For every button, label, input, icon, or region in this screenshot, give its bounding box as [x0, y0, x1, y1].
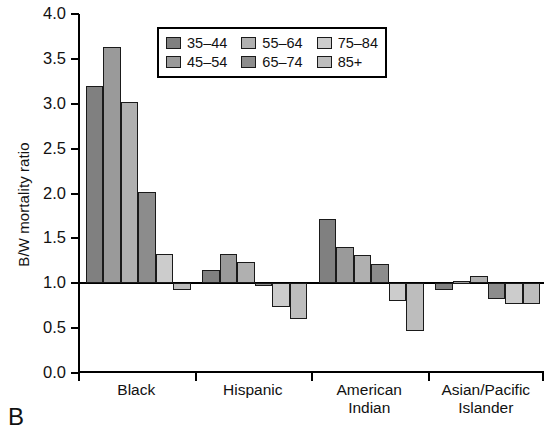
bar — [389, 283, 407, 301]
x-tick-mark — [428, 372, 430, 381]
legend-item: 75–84 — [317, 35, 378, 51]
bar — [237, 262, 255, 284]
y-tick-label: 3.5 — [20, 50, 66, 66]
legend-label: 65–74 — [262, 54, 302, 70]
y-tick-mark — [71, 103, 79, 105]
panel-letter: B — [8, 403, 24, 431]
legend-swatch-icon — [241, 56, 256, 68]
legend-label: 55–64 — [262, 35, 302, 51]
legend-item: 45–54 — [166, 54, 227, 70]
legend-item: 85+ — [317, 54, 363, 70]
legend-swatch-icon — [166, 56, 181, 68]
bar — [505, 283, 523, 304]
y-tick-mark — [71, 148, 79, 150]
bar — [156, 254, 174, 284]
legend-swatch-icon — [166, 37, 181, 49]
legend-swatch-icon — [317, 56, 332, 68]
y-tick-mark — [71, 13, 79, 15]
x-tick-mark — [311, 372, 313, 381]
x-group-label-line: Islander — [418, 399, 552, 417]
bar — [121, 102, 139, 283]
y-tick-label: 0.0 — [20, 364, 66, 380]
bar — [470, 276, 488, 283]
y-tick-mark — [71, 193, 79, 195]
bar — [290, 283, 308, 319]
bar — [255, 283, 273, 286]
legend-label: 75–84 — [338, 35, 378, 51]
y-tick-label: 3.0 — [20, 95, 66, 111]
legend-swatch-icon — [317, 37, 332, 49]
y-tick-label: 4.0 — [20, 5, 66, 21]
bar — [319, 219, 337, 284]
bar — [435, 283, 453, 289]
y-tick-label: 1.0 — [20, 274, 66, 290]
x-tick-mark — [542, 372, 544, 381]
x-tick-mark — [78, 372, 80, 381]
legend-label: 35–44 — [187, 35, 227, 51]
bar — [488, 283, 506, 298]
y-tick-label: 2.0 — [20, 185, 66, 201]
figure: B/W mortality ratio 0.00.51.01.52.02.53.… — [0, 0, 552, 437]
bar — [354, 255, 372, 283]
bar — [371, 264, 389, 283]
bar — [86, 86, 104, 283]
bar — [103, 47, 121, 283]
legend-item: 55–64 — [241, 35, 302, 51]
x-group-label-line: Asian/Pacific — [418, 381, 552, 399]
y-tick-label: 2.5 — [20, 140, 66, 156]
bar — [453, 281, 471, 284]
bar — [272, 283, 290, 306]
bar — [406, 283, 424, 331]
x-tick-mark — [195, 372, 197, 381]
legend-label: 45–54 — [187, 54, 227, 70]
y-tick-label: 1.5 — [20, 229, 66, 245]
bar — [202, 270, 220, 283]
legend-label: 85+ — [338, 54, 363, 70]
legend-row: 45–5465–7485+ — [166, 52, 378, 71]
bar — [173, 283, 191, 289]
legend: 35–4455–6475–8445–5465–7485+ — [157, 27, 387, 78]
legend-row: 35–4455–6475–84 — [166, 33, 378, 52]
bar — [336, 247, 354, 283]
x-group-label: Asian/PacificIslander — [418, 381, 552, 417]
legend-item: 35–44 — [166, 35, 227, 51]
bar — [220, 254, 238, 284]
y-tick-mark — [71, 327, 79, 329]
legend-item: 65–74 — [241, 54, 302, 70]
y-tick-label: 0.5 — [20, 319, 66, 335]
y-tick-mark — [71, 58, 79, 60]
legend-swatch-icon — [241, 37, 256, 49]
bar — [523, 283, 541, 304]
y-tick-mark — [71, 282, 79, 284]
bar — [138, 192, 156, 284]
y-tick-mark — [71, 237, 79, 239]
